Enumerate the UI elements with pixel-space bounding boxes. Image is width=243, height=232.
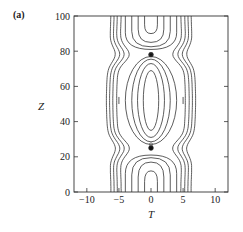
x-tick-label: 5 (181, 194, 186, 205)
x-tick-label: 10 (210, 194, 220, 205)
y-tick-label: 0 (65, 187, 70, 198)
contour-lines (106, 16, 195, 192)
x-tick-label: −5 (114, 194, 125, 205)
y-tick-label: 100 (55, 11, 70, 22)
y-tick-label: 80 (60, 46, 70, 57)
y-tick-label: 60 (60, 81, 70, 92)
x-tick-label: 0 (149, 194, 154, 205)
x-tick-label: −10 (79, 194, 95, 205)
y-tick-label: 40 (60, 116, 70, 127)
y-tick-label: 20 (60, 151, 70, 162)
y-axis-title: Z (38, 100, 45, 112)
y-axis: 020406080100 (55, 11, 228, 198)
contour-chart: 020406080100 −10−50510 T Z (0, 0, 243, 232)
x-axis: −10−50510 (79, 188, 220, 205)
x-axis-title: T (148, 208, 155, 220)
